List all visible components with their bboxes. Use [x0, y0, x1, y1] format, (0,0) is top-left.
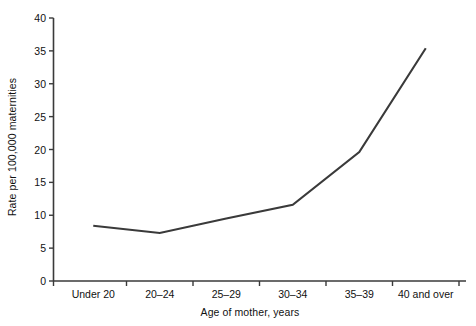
line-chart: Rate per 100,000 maternities Age of moth… [0, 0, 476, 326]
data-series [93, 48, 426, 233]
plot-area [0, 0, 476, 326]
axes [49, 18, 466, 286]
